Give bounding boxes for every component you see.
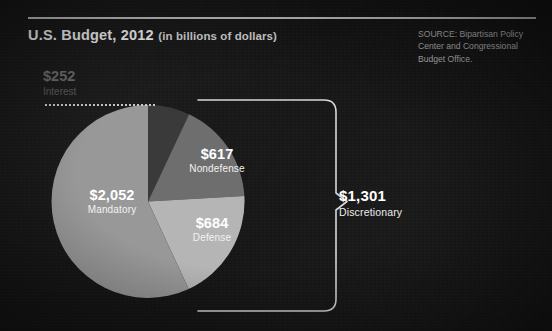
title-subtitle-text: (in billions of dollars) bbox=[158, 30, 277, 42]
infographic-page: U.S. Budget, 2012 (in billions of dollar… bbox=[0, 0, 552, 331]
discretionary-value: $1,301 bbox=[339, 188, 402, 205]
page-title: U.S. Budget, 2012 (in billions of dollar… bbox=[28, 26, 277, 44]
mandatory-value: $2,052 bbox=[48, 187, 176, 203]
source-note: SOURCE: Bipartisan Policy Center and Con… bbox=[418, 28, 542, 65]
title-main-text: U.S. Budget, 2012 bbox=[28, 27, 154, 43]
discretionary-name: Discretionary bbox=[339, 207, 402, 219]
interest-leader-line bbox=[45, 104, 155, 106]
bracket-path bbox=[198, 100, 347, 311]
interest-name: Interest bbox=[43, 86, 76, 97]
callout-discretionary: $1,301 Discretionary bbox=[339, 188, 402, 219]
slice-label-mandatory: $2,052 Mandatory bbox=[48, 187, 176, 215]
slice-label-interest: $252 Interest bbox=[43, 69, 76, 97]
interest-value: $252 bbox=[43, 69, 76, 85]
mandatory-name: Mandatory bbox=[48, 204, 176, 215]
title-rule bbox=[28, 17, 536, 19]
